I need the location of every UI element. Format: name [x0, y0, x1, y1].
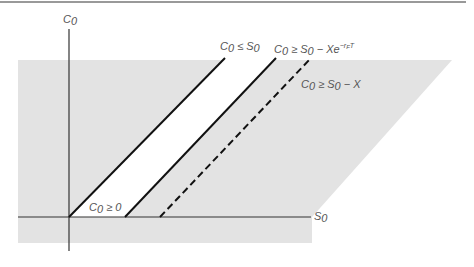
- lower-bound-intrinsic-label: C0 ≥ S0 − X: [301, 78, 361, 92]
- upper-bound-label: C0 ≤ S0: [220, 40, 261, 54]
- x-axis-label: S0: [314, 210, 328, 224]
- option-bounds-diagram: C0 S0 C0 ≤ S0 C0 ≥ S0 − Xe−rFT C0 ≥ S0 −…: [0, 0, 474, 267]
- nonneg-label: C0 ≥ 0: [89, 201, 122, 215]
- y-axis-label: C0: [63, 13, 78, 27]
